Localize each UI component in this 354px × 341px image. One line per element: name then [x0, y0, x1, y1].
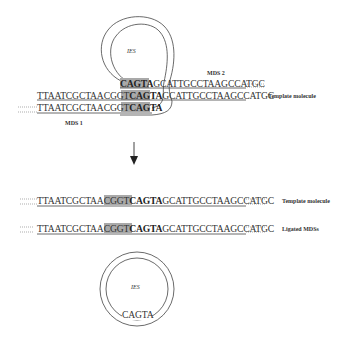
result-template-sequence: GCATTGCCTAAGCCATGC	[162, 195, 274, 206]
template-pointer: CAGTA	[129, 90, 162, 101]
template-prefix: TTAATCGCTAACGGT	[37, 90, 129, 101]
arrow-down-icon	[130, 142, 138, 165]
mds1-pointer: CAGTA	[129, 102, 162, 113]
ligated-pointer: CAGTA	[129, 223, 162, 234]
mds1-prefix: TTAATCGCTAACGGT	[37, 102, 129, 113]
ligated-sequence: GCATTGCCTAAGCCATGC	[162, 223, 274, 234]
mds2-sequence: GCATTGCCTAAGCCATGC	[153, 78, 265, 89]
ligated-mdss-label: Ligated MDSs	[282, 226, 320, 232]
result-template-label: Template molecule	[282, 198, 330, 204]
result-template-pointer: CAGTA	[129, 195, 162, 206]
result-template-strand: TTAATCGCTAACGGTCAGTAGCATTGCCTAAGCCATGC	[37, 195, 274, 206]
mds2-strand: CAGTAGCATTGCCTAAGCCATGC	[120, 78, 265, 89]
ies-excision-diagram: IES MDS 2 CAGTAGCATTGCCTAAGCCATGC TTAATC…	[0, 0, 354, 341]
mds1-label: MDS 1	[65, 120, 83, 126]
mds2-pointer: CAGTA	[120, 78, 153, 89]
mds1-strand: TTAATCGCTAACGGTCAGTA	[37, 102, 163, 113]
excised-pointer: CAGTA	[122, 309, 154, 320]
template-molecule-label: Template molecule	[268, 93, 316, 99]
template-strand: TTAATCGCTAACGGTCAGTAGCATTGCCTAAGCCATGC	[37, 90, 274, 101]
excised-ies-label: IES	[130, 284, 140, 290]
ligated-strand: TTAATCGCTAACGGTCAGTAGCATTGCCTAAGCCATGC	[37, 223, 274, 234]
ies-label: IES	[126, 48, 136, 54]
template-sequence: GCATTGCCTAAGCCATGC	[162, 90, 274, 101]
result-template-prefix: TTAATCGCTAACGGT	[37, 195, 129, 206]
mds2-label: MDS 2	[207, 70, 225, 76]
ligated-prefix: TTAATCGCTAACGGT	[37, 223, 129, 234]
